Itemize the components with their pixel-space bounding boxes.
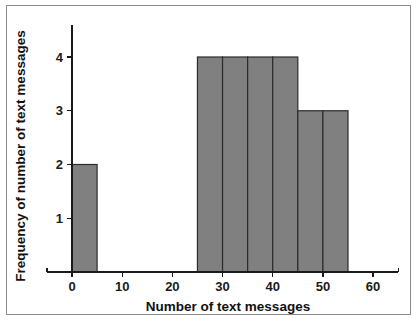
y-tick-labels: 1234 [56,50,72,226]
y-axis-tick-label: 4 [56,50,64,65]
histogram-bar [273,57,298,272]
histogram-figure: 0102030405060 1234 Number of text messag… [0,0,417,326]
histogram-bar [223,57,248,272]
x-tick-labels: 0102030405060 [68,272,380,294]
histogram-bar [197,57,222,272]
y-axis-title: Frequency of number of text messages [13,30,28,281]
bars-group [72,57,348,272]
x-axis-tick-label: 20 [165,279,179,294]
x-axis-tick-label: 40 [265,279,279,294]
x-axis-tick-label: 50 [316,279,330,294]
y-axis-tick-label: 1 [56,211,63,226]
y-axis-tick-label: 2 [56,157,63,172]
y-axis-tick-label: 3 [56,103,63,118]
x-axis-title: Number of text messages [146,299,310,314]
histogram-bar [298,111,323,272]
x-axis-tick-label: 60 [366,279,380,294]
x-axis-tick-label: 30 [215,279,229,294]
chart-canvas: 0102030405060 1234 Number of text messag… [0,0,417,326]
histogram-bar [248,57,273,272]
histogram-bar [323,111,348,272]
x-axis-tick-label: 0 [68,279,75,294]
histogram-bar [72,165,97,273]
x-axis-tick-label: 10 [115,279,129,294]
